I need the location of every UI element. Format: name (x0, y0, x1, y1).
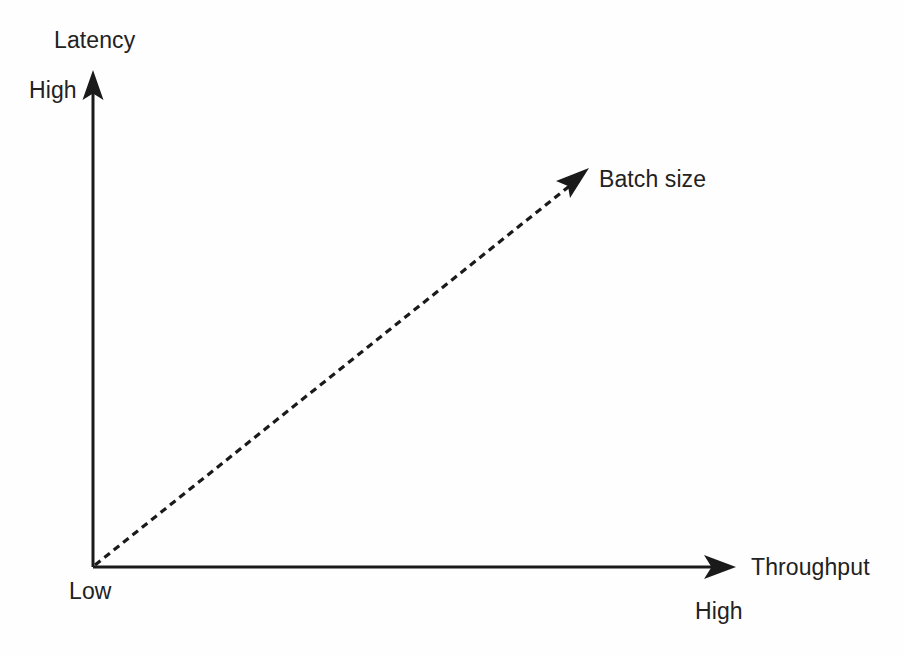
y-axis-high-label: High (29, 79, 77, 102)
x-axis-title-label: Throughput (751, 556, 870, 579)
batch-size-trend-label: Batch size (599, 168, 706, 191)
batch-size-trend-line (95, 184, 572, 565)
diagram-canvas: Latency High Low Throughput High Batch s… (0, 0, 904, 655)
batch-size-arrowhead-icon (556, 168, 589, 198)
x-axis-high-label: High (695, 600, 743, 623)
origin-low-label: Low (69, 580, 112, 603)
y-axis-title-label: Latency (54, 29, 135, 52)
